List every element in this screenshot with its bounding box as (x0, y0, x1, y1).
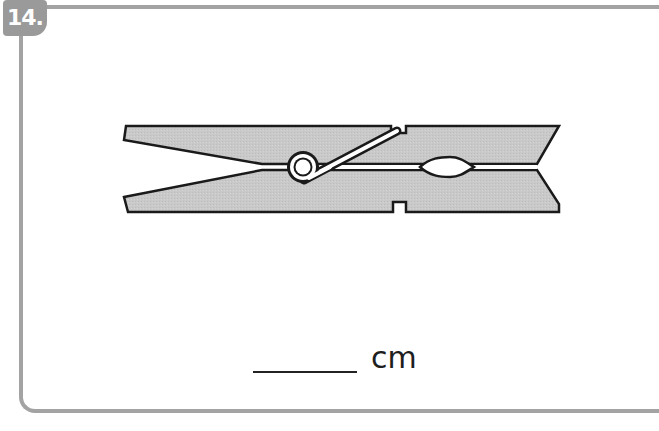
problem-number-badge: 14. (3, 0, 47, 36)
answer-blank[interactable] (253, 371, 357, 373)
clothespin-lower-arm (124, 170, 559, 212)
clothespin-icon (0, 0, 618, 260)
answer-row: cm (253, 330, 417, 376)
unit-label: cm (371, 340, 417, 376)
